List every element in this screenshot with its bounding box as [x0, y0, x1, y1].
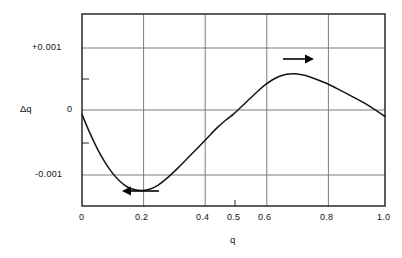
xtick-label-0.4: 0.4	[196, 212, 209, 222]
xtick-label-1.0: 1.0	[377, 212, 390, 222]
horizontal-gridlines	[82, 48, 385, 175]
figure-delta-q-vs-q: +0.001 0 -0.001 Δq 0 0.2 0.4 0.5 0.6 0.8…	[0, 0, 402, 258]
ytick-label-zero: 0	[67, 104, 72, 114]
right-arrow-head	[305, 55, 314, 64]
left-arrow-head	[122, 187, 131, 196]
xtick-label-0.6: 0.6	[258, 212, 271, 222]
ytick-label-minus-0.001: -0.001	[35, 169, 62, 179]
y-axis-minor-ticks	[82, 79, 89, 143]
xtick-label-0: 0	[79, 212, 84, 222]
right-arrow-annotation	[283, 55, 314, 64]
xtick-label-0.5: 0.5	[227, 212, 240, 222]
y-axis-title: Δq	[20, 103, 32, 114]
xtick-label-0.2: 0.2	[135, 212, 148, 222]
x-axis-title: q	[230, 234, 235, 245]
xtick-label-0.8: 0.8	[320, 212, 333, 222]
ytick-label-plus-0.001: +0.001	[32, 42, 62, 52]
data-curve-delta-q	[82, 74, 385, 191]
